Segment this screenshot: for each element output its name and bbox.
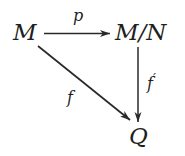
arrow-m-to-q bbox=[38, 46, 130, 120]
node-label-q: Q bbox=[129, 125, 148, 148]
edge-label-f: f bbox=[67, 90, 73, 106]
commutative-diagram: M M/N Q p f′ f bbox=[0, 0, 185, 156]
prime-mark-icon: ′ bbox=[153, 71, 156, 86]
edge-label-p: p bbox=[73, 8, 83, 24]
node-label-m-mod-n: M/N bbox=[115, 21, 166, 44]
node-label-m: M bbox=[13, 21, 37, 44]
edge-label-f-prime: f′ bbox=[147, 72, 156, 92]
